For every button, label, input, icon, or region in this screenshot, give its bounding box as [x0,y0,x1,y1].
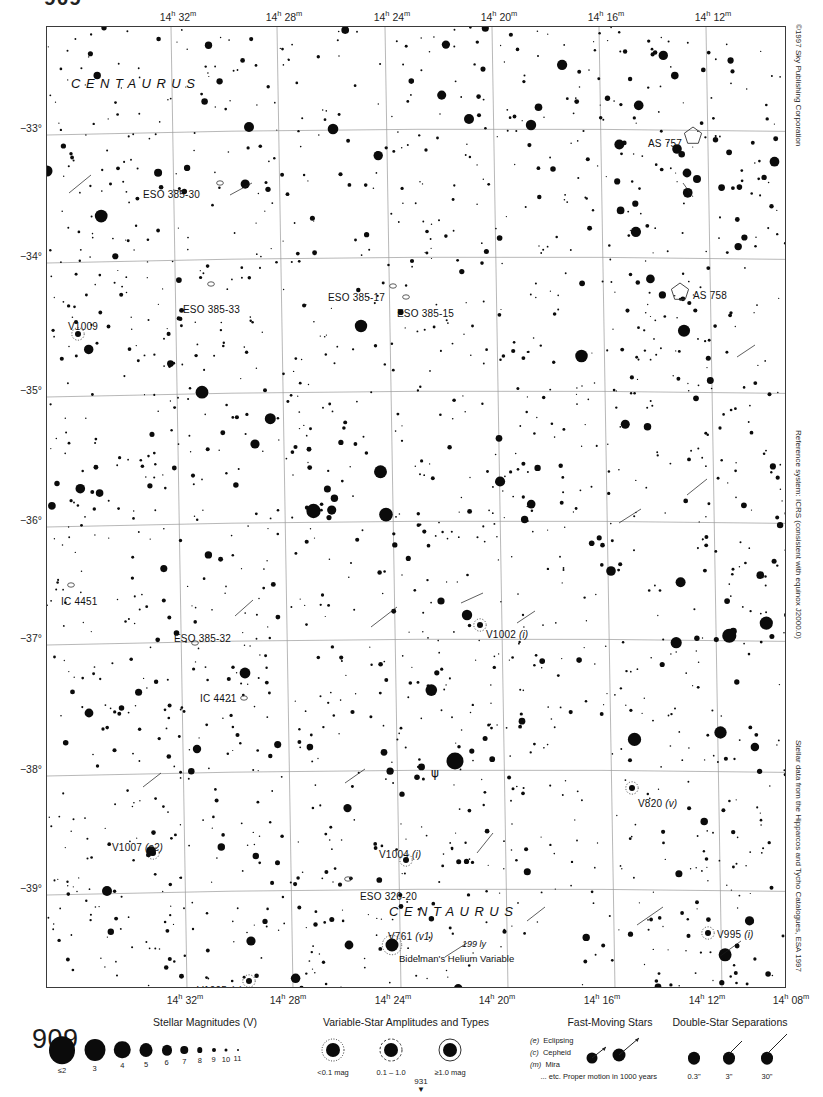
dec-tick-4: −37° [2,632,42,644]
bright-star [102,886,112,896]
ra-tick-top-4: 14h 16m [588,9,625,23]
deep-sky-symbols [68,127,702,881]
magnitude-dot-0 [49,1036,75,1064]
magnitude-dot-9 [237,1049,239,1051]
magnitude-dot-8 [225,1048,228,1051]
deep-sky-label-ic-4421: IC 4421 [200,693,236,704]
magnitude-dot-1 [84,1039,105,1061]
data-source-note: Stellar data from the Hipparcos and Tych… [794,740,803,972]
deep-sky-label-eso-385-33: ESO 385-33 [183,304,240,315]
ra-tick-bottom-2: 14h 24m [375,992,412,1006]
dec-tick-1: −34° [2,250,42,262]
copyright-note: ©1997 Sky Publishing Corporation [794,24,803,146]
ra-tick-bottom-5: 14h 12m [689,992,726,1006]
deep-sky-label-as-758: AS 758 [693,290,727,301]
variable-amplitude-symbol-1 [376,1035,406,1065]
magnitude-label-6: 8 [198,1056,202,1065]
variable-star-label-v820: V820 (v) [638,798,677,809]
bright-star [693,175,701,183]
magnitude-label-5: 7 [182,1057,186,1066]
bayer-label-psi: ψ [431,766,439,780]
ra-tick-bottom-0: 14h 32m [167,992,204,1006]
galaxy-symbol [217,181,224,185]
variable-amplitude-label-2: ≥1.0 mag [434,1068,465,1077]
variable-star-label-v995: V995 (i) [717,929,754,940]
bright-star [193,745,201,753]
dec-tick-6: −39° [2,882,42,894]
magnitude-dot-5 [181,1046,189,1054]
bright-star [246,936,255,945]
bright-star [683,169,692,178]
deep-sky-label-eso-385-15: ESO 385-15 [397,308,454,319]
ra-tick-top-0: 14h 32m [160,9,197,23]
constellation-label-0: CENTAURUS [71,76,200,91]
magnitude-label-4: 6 [164,1058,168,1067]
galaxy-symbol [208,282,215,286]
legend-title-double-stars: Double-Star Separations [673,1016,788,1028]
magnitude-dot-7 [212,1048,216,1052]
magnitude-dot-2 [114,1041,131,1058]
reference-system-note: Reference system: ICRS (consistent with … [794,430,803,639]
double-star-label-1: 3" [726,1072,733,1081]
bright-star [462,610,472,620]
magnitude-dot-3 [140,1043,153,1057]
double-star-dot-0 [688,1052,700,1065]
magnitude-dot-6 [197,1047,203,1053]
ra-tick-top-5: 14h 12m [695,9,732,23]
deep-sky-label-eso-385-30: ESO 385-30 [143,189,200,200]
ra-tick-top-3: 14h 20m [481,9,518,23]
magnitude-dot-4 [162,1045,172,1056]
bright-star [526,120,536,130]
legend-title-variables: Variable-Star Amplitudes and Types [323,1016,489,1028]
double-star-label-0: 0.3" [687,1072,700,1081]
galaxy-symbol [68,583,75,587]
variable-star-label-v1009: V1009 [68,321,98,332]
variable-star-label-v761: V761 (v1) [388,931,433,942]
chart-arrow-icon: ▼ [417,1085,425,1094]
ra-tick-top-2: 14h 24m [374,9,411,23]
chart-legend: 909 Stellar Magnitudes (V) ≤234567891011… [0,1010,823,1097]
bright-star [437,597,444,604]
variable-type-2: (m) Mira [530,1060,560,1069]
adjacent-chart-index: 931 ▼ [414,1078,427,1095]
open-cluster-symbol [684,127,701,143]
variable-amplitude-label-1: 0.1 – 1.0 [376,1068,405,1077]
magnitude-label-9: 11 [234,1054,242,1063]
bright-star-psi-centauri [447,753,464,770]
bright-star [328,124,339,135]
variable-star-label-v1004: V1004 (i) [379,849,421,860]
bright-star [46,166,53,177]
magnitude-label-3: 5 [144,1060,148,1069]
magnitude-label-0: ≤2 [58,1066,66,1075]
variable-type-3: ... etc. [530,1072,561,1081]
open-cluster-symbol [671,283,688,299]
galaxy-symbol [403,295,410,299]
variable-type-1: (c) Cepheid [530,1048,571,1057]
variable-amplitude-label-0: <0.1 mag [317,1068,348,1077]
constellation-label-1: CENTAURUS [389,904,518,919]
bright-star [345,941,354,950]
double-star-label-2: 30" [761,1072,772,1081]
magnitude-label-1: 3 [92,1064,96,1073]
helium-variable-annotation: Bidelman's Helium Variable [399,953,514,964]
dec-tick-3: −36° [2,514,42,526]
bright-star [240,668,251,679]
dec-tick-0: −33° [2,122,42,134]
fast-moving-caption: Proper motion in 1000 years [563,1072,657,1081]
variable-star-label-v1005: V1005 (s) [197,985,242,988]
bright-star [250,439,259,448]
star-chart: CENTAURUSCENTAURUSESO 385-30ESO 385-33ES… [46,26,786,988]
variable-star-label-v1007: V1007 (s2) [112,842,163,853]
ra-tick-bottom-6: 14h 08m [773,992,810,1006]
legend-title-magnitudes: Stellar Magnitudes (V) [153,1016,257,1028]
distance-annotation: 199 ly [462,939,486,949]
galaxy-symbol [241,696,248,700]
ra-tick-bottom-1: 14h 28m [270,992,307,1006]
magnitude-label-8: 10 [222,1055,230,1064]
variable-type-0: (e) Eclipsing [530,1036,573,1045]
magnitude-label-2: 4 [120,1061,124,1070]
dec-tick-2: −35° [2,384,42,396]
deep-sky-label-as-757: AS 757 [648,138,682,149]
variable-amplitude-symbol-2 [435,1035,465,1065]
bright-star [244,122,254,132]
